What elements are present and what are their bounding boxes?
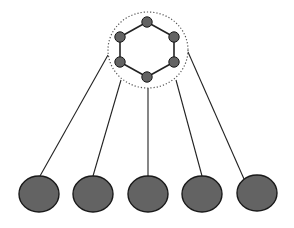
leaf-node-l3 [128,176,168,212]
leaf-node-l1 [19,176,59,212]
link-line-5 [188,52,244,179]
link-line-4 [176,80,202,176]
leaf-nodes [19,175,277,212]
ring-node-h6 [115,32,125,42]
ring-node-h4 [142,72,152,82]
ring-node-h1 [142,17,152,27]
leaf-node-l4 [182,176,222,212]
ring-node-h2 [169,32,179,42]
leaf-node-l5 [237,175,277,211]
hexagon-ring-nodes [115,17,179,82]
network-diagram [0,0,294,228]
ring-node-h5 [115,57,125,67]
hexagon-ring-edges [120,22,174,77]
leaf-node-l2 [73,176,113,212]
ring-node-h3 [169,57,179,67]
link-line-2 [93,80,121,176]
cluster-to-leaf-links [40,52,244,179]
